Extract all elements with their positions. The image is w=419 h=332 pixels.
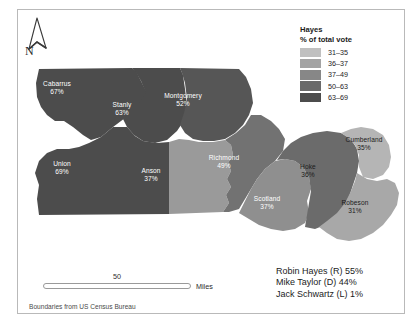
- scale-bar-value: 50: [43, 272, 191, 281]
- election-results: Robin Hayes (R) 55% Mike Taylor (D) 44% …: [276, 266, 363, 300]
- legend-swatch-icon: [300, 93, 321, 102]
- source-credit: Boundaries from US Census Bureau: [29, 303, 136, 310]
- map-figure: Cabarrus 67% Stanly 63% Montgomery 52% U…: [0, 0, 419, 332]
- scale-bar-units: Miles: [196, 282, 213, 291]
- legend-item[interactable]: 36–37: [300, 58, 400, 69]
- legend-swatch-icon: [300, 59, 321, 68]
- legend-item[interactable]: 50–63: [300, 81, 400, 92]
- legend-range-label: 36–37: [328, 59, 348, 68]
- county-shape-anson[interactable]: [169, 139, 233, 214]
- legend-range-label: 31–35: [328, 48, 348, 57]
- legend-item[interactable]: 31–35: [300, 47, 400, 58]
- legend-range-label: 50–63: [328, 82, 348, 91]
- legend-item[interactable]: 63–69: [300, 92, 400, 103]
- legend-item[interactable]: 37–49: [300, 70, 400, 81]
- legend: Hayes % of total vote 31–35 36–37 37–49 …: [300, 25, 400, 103]
- north-arrow-label: N: [25, 44, 34, 59]
- result-line-hayes: Robin Hayes (R) 55%: [276, 266, 363, 277]
- legend-title: Hayes: [300, 25, 400, 35]
- result-line-schwartz: Jack Schwartz (L) 1%: [276, 289, 363, 300]
- legend-swatch-icon: [300, 81, 321, 90]
- legend-range-label: 63–69: [328, 93, 348, 102]
- legend-subtitle: % of total vote: [300, 35, 400, 45]
- scale-bar: 50 Miles: [43, 283, 191, 289]
- scale-bar-track: [43, 283, 191, 289]
- legend-swatch-icon: [300, 48, 321, 57]
- legend-swatch-icon: [300, 70, 321, 79]
- legend-range-label: 37–49: [328, 70, 348, 79]
- result-line-taylor: Mike Taylor (D) 44%: [276, 277, 363, 288]
